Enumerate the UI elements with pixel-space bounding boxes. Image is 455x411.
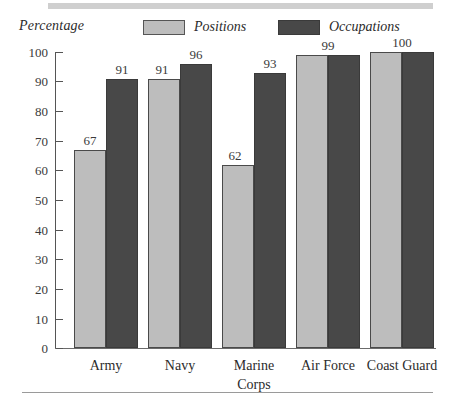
bar-value-navy-positions: 91 (146, 63, 178, 76)
y-tick-100 (56, 52, 63, 53)
legend-item-occupations: Occupations (278, 19, 400, 35)
y-tick-label-70: 70 (12, 135, 48, 148)
bar-coastguard-occupations[interactable] (402, 52, 434, 348)
bar-value-navy-occupations: 96 (180, 48, 212, 61)
bar-value-army-occupations: 91 (106, 63, 138, 76)
x-axis-line (55, 348, 436, 349)
y-tick-label-60: 60 (12, 164, 48, 177)
y-tick-80 (56, 111, 63, 112)
plot-area: 100 90 80 70 60 50 40 30 20 10 0 67 91 9… (0, 40, 455, 360)
bar-coastguard-positions[interactable] (370, 52, 402, 348)
y-tick-label-50: 50 (12, 194, 48, 207)
bar-army-occupations[interactable] (106, 79, 138, 348)
bar-marine-occupations[interactable] (254, 73, 286, 348)
y-tick-70 (56, 141, 63, 142)
bar-group-marine-corps: 62 93 (222, 52, 286, 348)
bar-airforce-positions[interactable] (296, 55, 328, 348)
bar-value-army-positions: 67 (74, 134, 106, 147)
y-tick-label-100: 100 (12, 46, 48, 59)
y-tick-label-40: 40 (12, 224, 48, 237)
bar-army-positions[interactable] (74, 150, 106, 348)
bar-airforce-occupations[interactable] (328, 55, 360, 348)
y-tick-label-30: 30 (12, 253, 48, 266)
bar-navy-positions[interactable] (148, 79, 180, 348)
bar-group-army: 67 91 (74, 52, 138, 348)
bar-group-air-force: 99 (296, 52, 360, 348)
y-tick-label-10: 10 (12, 313, 48, 326)
bar-value-coastguard: 100 (386, 36, 418, 49)
y-tick-0 (56, 348, 63, 349)
top-divider-rule (48, 3, 433, 9)
legend-label-positions: Positions (194, 19, 246, 35)
bar-group-coast-guard: 100 (370, 52, 434, 348)
y-tick-label-0: 0 (12, 342, 48, 355)
bar-value-marine-positions: 62 (219, 149, 251, 162)
y-tick-90 (56, 81, 63, 82)
bar-group-navy: 91 96 (148, 52, 212, 348)
y-tick-label-80: 80 (12, 105, 48, 118)
y-tick-40 (56, 230, 63, 231)
legend-label-occupations: Occupations (329, 19, 400, 35)
y-tick-20 (56, 289, 63, 290)
y-tick-60 (56, 170, 63, 171)
x-label-coast-guard: Coast Guard (347, 356, 455, 375)
y-tick-label-90: 90 (12, 75, 48, 88)
y-tick-label-20: 20 (12, 283, 48, 296)
y-axis-title: Percentage (19, 18, 84, 34)
bar-marine-positions[interactable] (222, 165, 254, 348)
bar-value-airforce: 99 (312, 39, 344, 52)
y-tick-50 (56, 200, 63, 201)
y-tick-10 (56, 319, 63, 320)
bar-value-marine-occupations: 93 (254, 57, 286, 70)
bottom-divider-rule (22, 392, 433, 393)
legend-swatch-positions (143, 20, 185, 35)
bar-navy-occupations[interactable] (180, 64, 212, 348)
legend-swatch-occupations (278, 20, 320, 35)
legend-item-positions: Positions (143, 19, 246, 35)
y-tick-30 (56, 259, 63, 260)
